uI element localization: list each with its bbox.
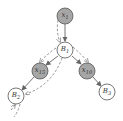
label-x10: x10 bbox=[82, 67, 92, 75]
edge-x10-B3 bbox=[93, 77, 101, 86]
nodes bbox=[8, 8, 115, 104]
label-B3: B3 bbox=[103, 88, 111, 96]
label-x1: x1 bbox=[61, 12, 68, 20]
label-B2: B2 bbox=[12, 92, 20, 100]
message-B1-x10 bbox=[73, 47, 88, 62]
edge-x15-B2 bbox=[22, 77, 34, 90]
label-x15: x15 bbox=[35, 67, 45, 75]
message-B2-out bbox=[14, 104, 20, 117]
message-out-B2 bbox=[11, 105, 15, 110]
message-B1-x15 bbox=[40, 48, 56, 62]
edge-B1-x10 bbox=[72, 56, 81, 64]
label-B1: B1 bbox=[61, 46, 69, 54]
message-x1-B1 bbox=[57, 20, 60, 42]
edge-B1-x15 bbox=[46, 56, 58, 65]
messages bbox=[11, 20, 88, 117]
